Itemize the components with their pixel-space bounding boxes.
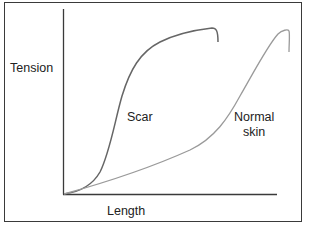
x-axis-label: Length	[107, 204, 145, 218]
normal-skin-label-line2: skin	[234, 125, 274, 140]
y-axis-label: Tension	[10, 61, 53, 75]
scar-label: Scar	[127, 110, 153, 124]
normal-skin-label: Normal skin	[234, 110, 274, 140]
normal-skin-label-line1: Normal	[234, 110, 274, 125]
